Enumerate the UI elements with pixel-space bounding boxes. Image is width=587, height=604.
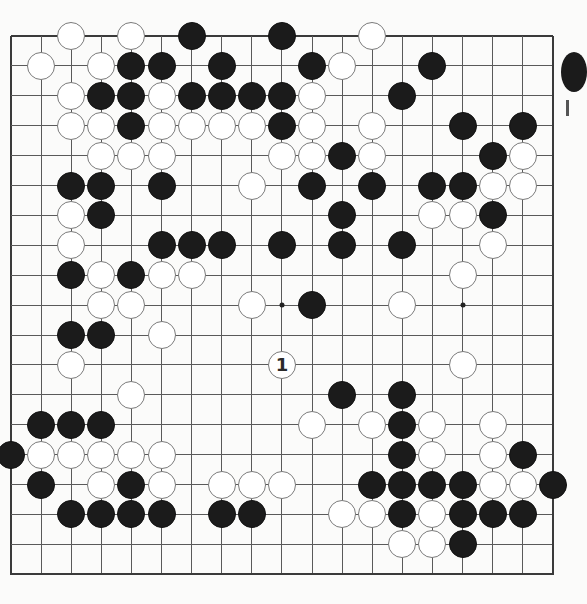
black-stone[interactable] bbox=[117, 261, 145, 289]
white-stone[interactable] bbox=[27, 52, 55, 80]
white-stone[interactable] bbox=[87, 142, 115, 170]
white-stone[interactable] bbox=[358, 142, 386, 170]
white-stone[interactable] bbox=[358, 22, 386, 50]
black-stone[interactable] bbox=[148, 52, 176, 80]
white-stone[interactable] bbox=[57, 112, 85, 140]
white-stone[interactable] bbox=[57, 22, 85, 50]
black-stone[interactable] bbox=[117, 82, 145, 110]
white-stone[interactable] bbox=[148, 261, 176, 289]
white-stone[interactable] bbox=[328, 52, 356, 80]
white-stone[interactable] bbox=[148, 321, 176, 349]
black-stone[interactable] bbox=[148, 172, 176, 200]
white-stone[interactable] bbox=[238, 172, 266, 200]
black-stone[interactable] bbox=[57, 261, 85, 289]
black-stone[interactable] bbox=[388, 82, 416, 110]
black-stone[interactable] bbox=[298, 291, 326, 319]
black-stone[interactable] bbox=[178, 82, 206, 110]
black-stone[interactable] bbox=[388, 411, 416, 439]
black-stone[interactable] bbox=[388, 500, 416, 528]
black-stone[interactable] bbox=[328, 142, 356, 170]
black-stone[interactable] bbox=[388, 441, 416, 469]
black-stone[interactable] bbox=[328, 381, 356, 409]
white-stone[interactable] bbox=[208, 471, 236, 499]
white-stone[interactable] bbox=[298, 142, 326, 170]
white-stone[interactable] bbox=[57, 231, 85, 259]
black-stone[interactable] bbox=[238, 500, 266, 528]
black-stone[interactable] bbox=[117, 471, 145, 499]
white-stone[interactable] bbox=[418, 201, 446, 229]
white-stone[interactable] bbox=[449, 201, 477, 229]
white-stone[interactable] bbox=[358, 112, 386, 140]
white-stone[interactable] bbox=[238, 291, 266, 319]
black-stone[interactable] bbox=[509, 441, 537, 469]
white-stone[interactable] bbox=[268, 142, 296, 170]
white-stone[interactable] bbox=[238, 471, 266, 499]
black-stone[interactable] bbox=[117, 500, 145, 528]
black-stone[interactable] bbox=[208, 500, 236, 528]
black-stone[interactable] bbox=[358, 172, 386, 200]
black-stone[interactable] bbox=[449, 172, 477, 200]
numbered-stone-white[interactable]: 1 bbox=[268, 351, 296, 379]
black-stone[interactable] bbox=[328, 201, 356, 229]
black-stone[interactable] bbox=[27, 411, 55, 439]
black-stone[interactable] bbox=[328, 231, 356, 259]
black-stone[interactable] bbox=[87, 201, 115, 229]
white-stone[interactable] bbox=[509, 142, 537, 170]
black-stone[interactable] bbox=[87, 321, 115, 349]
black-stone[interactable] bbox=[238, 82, 266, 110]
black-stone[interactable] bbox=[208, 82, 236, 110]
white-stone[interactable] bbox=[479, 231, 507, 259]
black-stone[interactable] bbox=[268, 82, 296, 110]
white-stone[interactable] bbox=[358, 411, 386, 439]
white-stone[interactable] bbox=[418, 500, 446, 528]
black-stone[interactable] bbox=[539, 471, 567, 499]
black-stone[interactable] bbox=[57, 172, 85, 200]
white-stone[interactable] bbox=[57, 82, 85, 110]
white-stone[interactable] bbox=[449, 351, 477, 379]
black-stone[interactable] bbox=[27, 471, 55, 499]
white-stone[interactable] bbox=[388, 530, 416, 558]
white-stone[interactable] bbox=[27, 441, 55, 469]
white-stone[interactable] bbox=[117, 441, 145, 469]
white-stone[interactable] bbox=[117, 142, 145, 170]
white-stone[interactable] bbox=[87, 441, 115, 469]
white-stone[interactable] bbox=[148, 112, 176, 140]
black-stone[interactable] bbox=[268, 231, 296, 259]
white-stone[interactable] bbox=[87, 261, 115, 289]
black-stone[interactable] bbox=[479, 142, 507, 170]
white-stone[interactable] bbox=[509, 172, 537, 200]
white-stone[interactable] bbox=[57, 351, 85, 379]
black-stone[interactable] bbox=[449, 471, 477, 499]
black-stone[interactable] bbox=[509, 112, 537, 140]
white-stone[interactable] bbox=[87, 471, 115, 499]
black-stone[interactable] bbox=[509, 500, 537, 528]
black-stone[interactable] bbox=[57, 411, 85, 439]
black-stone[interactable] bbox=[418, 52, 446, 80]
black-stone[interactable] bbox=[449, 500, 477, 528]
black-stone[interactable] bbox=[117, 112, 145, 140]
white-stone[interactable] bbox=[479, 471, 507, 499]
black-stone[interactable] bbox=[87, 411, 115, 439]
black-stone[interactable] bbox=[117, 52, 145, 80]
black-stone[interactable] bbox=[0, 441, 25, 469]
white-stone[interactable] bbox=[328, 500, 356, 528]
black-stone[interactable] bbox=[449, 530, 477, 558]
black-stone[interactable] bbox=[148, 500, 176, 528]
white-stone[interactable] bbox=[148, 82, 176, 110]
white-stone[interactable] bbox=[479, 411, 507, 439]
black-stone[interactable] bbox=[87, 82, 115, 110]
white-stone[interactable] bbox=[117, 291, 145, 319]
white-stone[interactable] bbox=[509, 471, 537, 499]
white-stone[interactable] bbox=[298, 411, 326, 439]
white-stone[interactable] bbox=[178, 112, 206, 140]
black-stone[interactable] bbox=[298, 52, 326, 80]
white-stone[interactable] bbox=[449, 261, 477, 289]
white-stone[interactable] bbox=[208, 112, 236, 140]
white-stone[interactable] bbox=[87, 112, 115, 140]
white-stone[interactable] bbox=[117, 381, 145, 409]
white-stone[interactable] bbox=[238, 112, 266, 140]
black-stone[interactable] bbox=[57, 321, 85, 349]
white-stone[interactable] bbox=[148, 471, 176, 499]
white-stone[interactable] bbox=[418, 530, 446, 558]
